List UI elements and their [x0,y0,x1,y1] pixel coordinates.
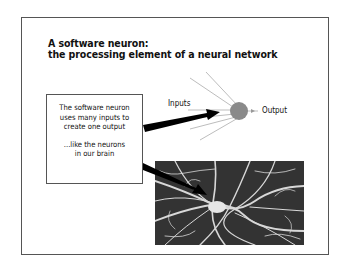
neuron-diagram [0,0,349,267]
callout-arrow-to-neuron-icon [143,109,220,132]
inputs-label: Inputs [168,99,190,108]
output-label: Output [262,106,287,115]
callout-arrow-to-photo-icon [143,163,207,195]
input-lines [186,72,258,140]
neuron-node-icon [230,102,248,120]
output-arrowhead-icon [251,109,255,113]
